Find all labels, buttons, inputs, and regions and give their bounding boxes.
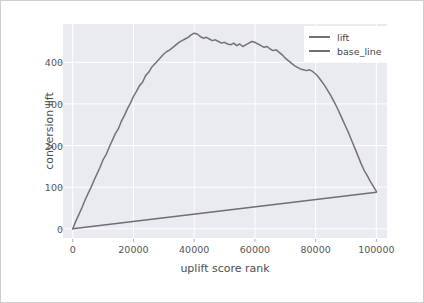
legend-item-lift[interactable]: lift [309,30,382,44]
y-tick-label: 400 [45,57,63,68]
x-tick-label: 40000 [179,244,209,255]
chart-figure: 020000400006000080000100000 010020030040… [0,0,424,303]
y-tick-label: 100 [45,182,63,193]
legend-line-swatch-icon [309,50,330,52]
chart-legend[interactable]: liftbase_line [304,26,389,62]
legend-label: base_line [337,46,382,57]
y-axis-title: conversion lift [43,92,56,170]
legend-item-base_line[interactable]: base_line [309,44,382,58]
x-tick-label: 80000 [301,244,331,255]
x-axis-title: uplift score rank [180,262,269,275]
legend-label: lift [337,32,349,43]
x-tick-label: 0 [70,244,76,255]
x-tick-label: 60000 [240,244,270,255]
legend-line-swatch-icon [309,36,330,38]
x-tick-label: 20000 [118,244,148,255]
y-tick-label: 0 [57,223,63,234]
x-tick-label: 100000 [358,244,394,255]
